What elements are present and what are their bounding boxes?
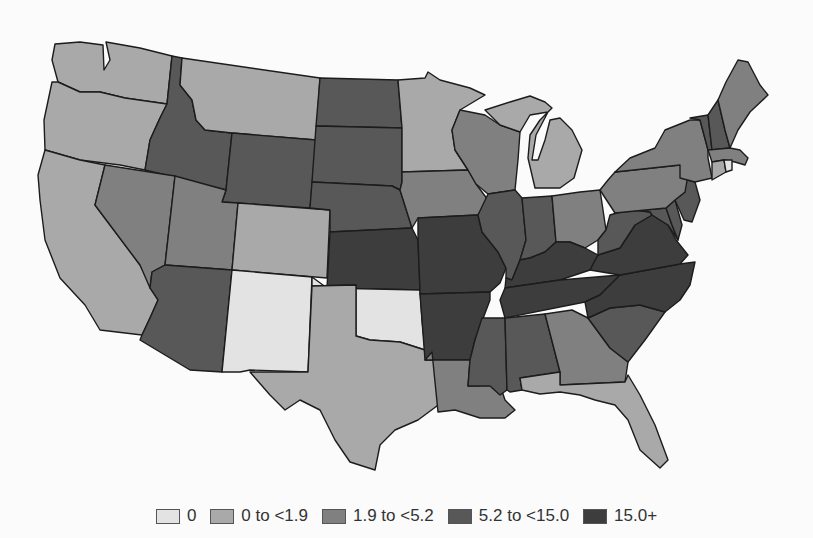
state-NM	[222, 270, 312, 372]
legend-label: 15.0+	[614, 506, 657, 526]
legend-item-5.2-to-15.0: 5.2 to <15.0	[448, 506, 569, 526]
legend-item-15.0-plus: 15.0+	[583, 506, 657, 526]
legend-label: 0 to <1.9	[241, 506, 308, 526]
legend-label: 0	[187, 506, 196, 526]
state-AZ	[140, 265, 232, 372]
legend-swatch-icon	[583, 509, 607, 524]
state-CO	[232, 203, 330, 278]
map-legend: 0 0 to <1.9 1.9 to <5.2 5.2 to <15.0 15.…	[0, 506, 813, 526]
state-WY	[222, 133, 316, 208]
state-SD	[312, 126, 402, 190]
legend-swatch-icon	[448, 509, 472, 524]
state-FL	[520, 372, 668, 468]
state-ND	[316, 78, 402, 128]
legend-label: 5.2 to <15.0	[479, 506, 569, 526]
state-RI	[724, 160, 732, 172]
legend-label: 1.9 to <5.2	[353, 506, 434, 526]
legend-item-1.9-to-5.2: 1.9 to <5.2	[322, 506, 434, 526]
state-KS	[327, 228, 420, 290]
us-choropleth-map	[0, 0, 813, 490]
legend-swatch-icon	[322, 509, 346, 524]
legend-swatch-icon	[210, 509, 234, 524]
legend-item-zero: 0	[156, 506, 196, 526]
legend-swatch-icon	[156, 509, 180, 524]
legend-item-0-to-1.9: 0 to <1.9	[210, 506, 308, 526]
